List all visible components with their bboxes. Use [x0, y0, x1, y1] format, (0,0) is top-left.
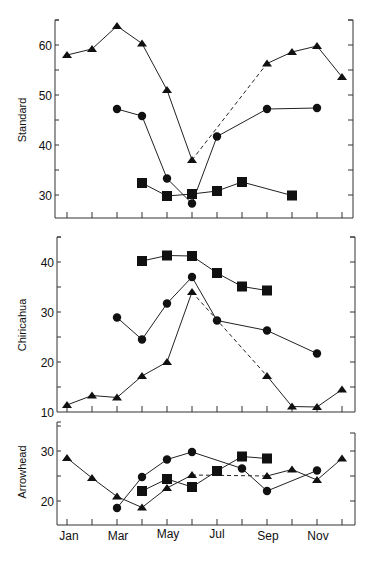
triangle-marker	[287, 403, 297, 410]
circle-marker	[163, 455, 171, 463]
circle-marker	[188, 448, 196, 456]
xtick-label-sep: Sep	[257, 529, 279, 543]
triangle-marker	[187, 156, 197, 163]
triangle-marker	[112, 22, 122, 29]
panel-chiricahua: 10203040	[41, 237, 355, 420]
series-circle	[113, 448, 321, 512]
panel3-ylabel: Arrowhead	[16, 445, 28, 498]
circle-marker	[163, 299, 171, 307]
square-marker	[137, 178, 147, 188]
triangle-marker	[312, 42, 322, 49]
triangle-marker	[187, 471, 197, 478]
circle-marker	[113, 504, 121, 512]
square-marker	[137, 486, 147, 496]
series-triangle	[62, 454, 347, 511]
triangle-marker	[137, 372, 147, 379]
series-triangle	[62, 288, 347, 410]
triangle-marker	[287, 466, 297, 473]
square-marker	[212, 466, 222, 476]
triangle-marker	[262, 372, 272, 379]
square-marker	[212, 186, 222, 196]
chart-figure: 30405060102030402030 Standard Chiricahua…	[0, 0, 376, 564]
series-square	[137, 251, 272, 296]
series-square	[137, 452, 272, 497]
square-marker	[162, 474, 172, 484]
panel2-ylabel: Chiricahua	[16, 298, 28, 351]
circle-marker	[138, 335, 146, 343]
circle-marker	[138, 112, 146, 120]
square-marker	[237, 452, 247, 462]
ytick-label: 20	[41, 356, 55, 370]
xtick-label-mar: Mar	[108, 529, 129, 543]
series-square	[137, 177, 297, 201]
circle-marker	[238, 464, 246, 472]
triangle-marker	[87, 392, 97, 399]
panel1-ylabel: Standard	[16, 98, 28, 143]
triangle-marker	[62, 401, 72, 408]
triangle-marker	[162, 358, 172, 365]
triangle-marker	[337, 455, 347, 462]
circle-marker	[263, 105, 271, 113]
triangle-marker	[337, 386, 347, 393]
triangle-marker	[187, 288, 197, 295]
square-marker	[212, 268, 222, 278]
triangle-marker	[262, 60, 272, 67]
ytick-label: 50	[39, 89, 53, 103]
circle-marker	[313, 104, 321, 112]
square-marker	[237, 177, 247, 187]
circle-marker	[113, 313, 121, 321]
xtick-label-jul: Jul	[209, 527, 224, 541]
square-marker	[137, 256, 147, 266]
panel-arrowhead: 2030	[41, 422, 355, 525]
square-marker	[187, 251, 197, 261]
circle-marker	[163, 174, 171, 182]
circle-marker	[263, 487, 271, 495]
square-marker	[287, 191, 297, 201]
square-marker	[262, 286, 272, 296]
series-triangle	[62, 22, 347, 163]
square-marker	[237, 282, 247, 292]
circle-marker	[188, 199, 196, 207]
square-marker	[162, 251, 172, 261]
circle-marker	[213, 132, 221, 140]
ytick-label: 30	[39, 189, 53, 203]
ytick-label: 40	[41, 256, 55, 270]
series-circle	[113, 273, 321, 358]
xtick-label-jan: Jan	[59, 529, 78, 543]
square-marker	[187, 482, 197, 492]
triangle-marker	[337, 73, 347, 80]
square-marker	[162, 191, 172, 201]
circle-marker	[113, 105, 121, 113]
panel-standard: 30405060	[39, 20, 353, 218]
triangle-marker	[162, 86, 172, 93]
ytick-label: 30	[41, 445, 55, 459]
square-marker	[262, 454, 272, 464]
triangle-marker	[162, 484, 172, 491]
xtick-label-nov: Nov	[307, 529, 328, 543]
ytick-label: 10	[41, 406, 55, 420]
circle-marker	[138, 473, 146, 481]
square-marker	[187, 189, 197, 199]
ytick-label: 20	[41, 495, 55, 509]
triangle-marker	[62, 454, 72, 461]
ytick-label: 30	[41, 306, 55, 320]
circle-marker	[313, 349, 321, 357]
ytick-label: 60	[39, 39, 53, 53]
ytick-label: 40	[39, 139, 53, 153]
xtick-label-may: May	[157, 527, 180, 541]
circle-marker	[313, 466, 321, 474]
circle-marker	[188, 273, 196, 281]
circle-marker	[263, 326, 271, 334]
